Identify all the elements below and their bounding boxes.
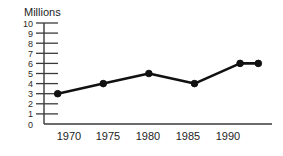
y-tick-label-3: 3: [28, 89, 33, 99]
data-point: [237, 60, 244, 67]
y-tick-label-9: 9: [28, 29, 33, 39]
x-tick-label-1980: 1980: [136, 130, 160, 142]
chart-canvas: Millions 10 9 8 7 6 5: [0, 0, 283, 156]
y-tick-label-10: 10: [23, 19, 33, 29]
data-point: [100, 80, 107, 87]
data-point: [54, 90, 61, 97]
y-tick-label-0: 0: [28, 120, 33, 130]
y-tick-label-8: 8: [28, 39, 33, 49]
y-tick-label-6: 6: [28, 59, 33, 69]
data-point: [191, 80, 198, 87]
y-tick-label-7: 7: [28, 49, 33, 59]
data-point: [146, 70, 153, 77]
line-chart: Millions 10 9 8 7 6 5: [0, 0, 283, 156]
y-axis-title: Millions: [24, 6, 61, 18]
data-point: [255, 60, 262, 67]
y-tick-label-2: 2: [28, 99, 33, 109]
x-tick-label-1985: 1985: [176, 130, 200, 142]
x-tick-label-1975: 1975: [96, 130, 120, 142]
y-tick-label-4: 4: [28, 79, 33, 89]
y-tick-label-5: 5: [28, 69, 33, 79]
x-tick-label-1990: 1990: [216, 130, 240, 142]
x-tick-label-1970: 1970: [57, 130, 81, 142]
y-tick-label-1: 1: [28, 109, 33, 119]
